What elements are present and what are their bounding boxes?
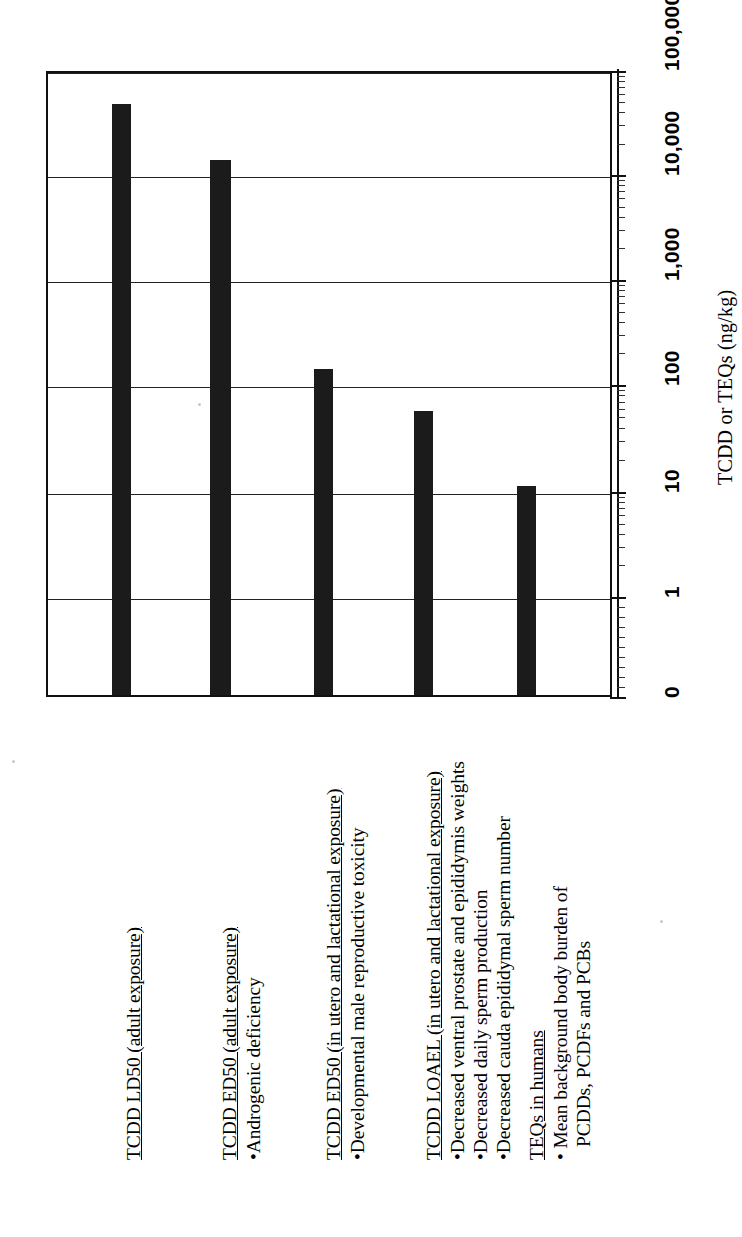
tick-label-100: 100 — [660, 350, 685, 386]
tick-minor — [617, 402, 625, 403]
plot-area — [46, 71, 612, 697]
tick-minor — [617, 180, 625, 181]
category-bullet: •Decreased daily sperm production — [470, 761, 492, 1160]
scan-speck — [660, 920, 663, 923]
tick-minor — [617, 515, 625, 516]
tick-minor — [617, 76, 625, 77]
tick-minor — [617, 303, 625, 304]
category-heading: TCDD ED50 (adult exposure) — [219, 927, 241, 1160]
tick-minor — [617, 125, 625, 126]
category-bullet-continuation: PCDDs, PCDFs and PCBs — [573, 886, 595, 1160]
tick-minor — [617, 428, 625, 429]
tick-label-10: 10 — [660, 469, 685, 493]
tick-minor — [617, 81, 625, 82]
gridline-10000 — [48, 177, 610, 178]
tick-major-100000 — [610, 71, 626, 73]
category-label-tcdd-ed50-utero: TCDD ED50 (in utero and lactational expo… — [323, 789, 369, 1160]
tick-minor — [617, 534, 625, 535]
tick-minor — [617, 87, 625, 88]
tick-minor — [617, 524, 625, 525]
tick-minor — [617, 647, 625, 648]
tick-label-1: 1 — [660, 586, 685, 598]
axis-title: TCDD or TEQs (ng/kg) — [714, 290, 738, 485]
category-bullet: • Mean background body burden of — [550, 886, 572, 1160]
category-bullet: •Androgenic deficiency — [243, 927, 265, 1160]
category-label-teqs-humans: TEQs in humans • Mean background body bu… — [526, 886, 595, 1160]
category-heading: TCDD LD50 (adult exposure) — [123, 927, 145, 1160]
tick-minor — [617, 502, 625, 503]
category-label-tcdd-ed50-adult: TCDD ED50 (adult exposure) •Androgenic d… — [219, 927, 265, 1160]
tick-minor — [617, 296, 625, 297]
tick-minor — [617, 102, 625, 103]
tick-major-100 — [610, 385, 626, 387]
tick-minor — [617, 144, 625, 145]
tick-minor — [617, 207, 625, 208]
tick-major-10000 — [610, 175, 626, 177]
tick-minor — [617, 497, 625, 498]
category-heading: TCDD LOAEL (in utero and lactational exp… — [423, 761, 445, 1160]
bar-teqs-humans — [517, 486, 536, 695]
tick-label-100000: 100,000 — [660, 0, 685, 71]
category-heading: TEQs in humans — [526, 886, 548, 1160]
tick-label-1000: 1,000 — [660, 227, 685, 281]
tick-major-0 — [610, 697, 626, 699]
tick-minor — [617, 617, 625, 618]
tick-major-1 — [610, 597, 626, 599]
scan-speck — [198, 403, 201, 406]
tick-minor — [617, 667, 625, 668]
tick-minor — [617, 248, 625, 249]
bar-tcdd-ed50-adult — [210, 160, 231, 695]
tick-minor — [617, 409, 625, 410]
category-bullet: •Developmental male reproductive toxicit… — [347, 789, 369, 1160]
tick-minor — [617, 285, 625, 286]
tick-minor — [617, 335, 625, 336]
tick-minor — [617, 353, 625, 354]
tick-major-1000 — [610, 280, 626, 282]
rotated-bar-chart-figure: 100,000 10,000 1,000 100 10 1 0 TCDD or … — [0, 0, 742, 1237]
tick-minor — [617, 607, 625, 608]
tick-minor — [617, 312, 625, 313]
category-bullet: •Decreased ventral prostate and epididym… — [447, 761, 469, 1160]
tick-minor — [617, 417, 625, 418]
category-label-tcdd-ld50-adult: TCDD LD50 (adult exposure) — [123, 927, 147, 1160]
tick-minor — [617, 217, 625, 218]
tick-minor — [617, 687, 625, 688]
tick-major-10 — [610, 492, 626, 494]
category-label-tcdd-loael-utero: TCDD LOAEL (in utero and lactational exp… — [423, 761, 515, 1160]
tick-minor — [617, 637, 625, 638]
tick-minor — [617, 460, 625, 461]
tick-minor — [617, 185, 625, 186]
tick-minor — [617, 112, 625, 113]
tick-minor — [617, 94, 625, 95]
tick-minor — [617, 230, 625, 231]
bar-tcdd-ld50-adult — [112, 104, 131, 695]
value-axis-line — [617, 69, 619, 699]
bar-tcdd-loael-utero — [414, 411, 433, 695]
bar-tcdd-ed50-utero — [314, 369, 333, 695]
tick-label-0: 0 — [660, 686, 685, 698]
tick-minor — [617, 677, 625, 678]
tick-minor — [617, 657, 625, 658]
category-bullet: •Decreased cauda epididymal sperm number — [493, 761, 515, 1160]
category-heading: TCDD ED50 (in utero and lactational expo… — [323, 789, 345, 1160]
tick-minor — [617, 565, 625, 566]
tick-minor — [617, 508, 625, 509]
tick-minor — [617, 441, 625, 442]
tick-label-10000: 10,000 — [660, 111, 685, 176]
tick-minor — [617, 547, 625, 548]
tick-minor — [617, 290, 625, 291]
scan-speck — [12, 760, 15, 763]
gridline-1000 — [48, 282, 610, 283]
gridline-100000 — [48, 73, 610, 74]
tick-minor — [617, 627, 625, 628]
tick-minor — [617, 198, 625, 199]
tick-minor — [617, 395, 625, 396]
tick-minor — [617, 390, 625, 391]
tick-minor — [617, 191, 625, 192]
tick-minor — [617, 322, 625, 323]
